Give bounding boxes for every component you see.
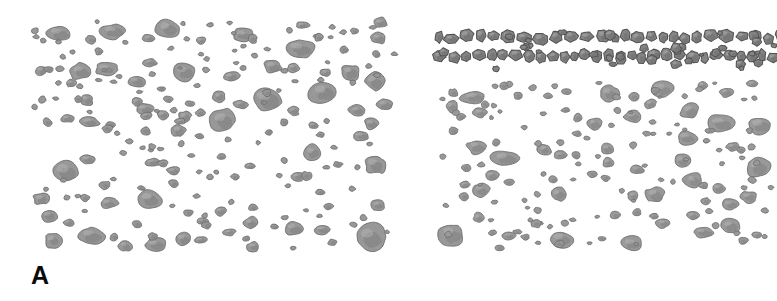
panel-b: B bbox=[400, 0, 777, 301]
clast bbox=[683, 128, 687, 131]
clast bbox=[39, 96, 46, 103]
clast bbox=[535, 241, 541, 244]
clast bbox=[491, 200, 497, 204]
clast bbox=[634, 243, 638, 246]
clast bbox=[741, 239, 746, 243]
clast bbox=[178, 141, 184, 147]
clast bbox=[642, 164, 648, 167]
clast bbox=[32, 104, 37, 110]
clast bbox=[229, 199, 235, 204]
clast bbox=[720, 162, 725, 166]
clast bbox=[743, 193, 750, 197]
clast bbox=[290, 246, 296, 250]
clast bbox=[734, 231, 740, 235]
clast bbox=[587, 242, 592, 245]
clast bbox=[198, 52, 203, 56]
clast bbox=[619, 188, 624, 193]
clast bbox=[683, 158, 689, 161]
clast bbox=[276, 174, 282, 178]
clast bbox=[232, 49, 237, 52]
clast bbox=[752, 96, 757, 100]
clast bbox=[716, 148, 722, 152]
clast bbox=[471, 142, 478, 146]
clast bbox=[658, 96, 662, 98]
clast bbox=[60, 54, 66, 59]
clast bbox=[596, 81, 602, 84]
clast bbox=[64, 195, 70, 200]
clast bbox=[203, 67, 210, 72]
clast bbox=[292, 80, 298, 83]
clast bbox=[277, 89, 282, 93]
clast bbox=[534, 207, 541, 213]
clast bbox=[60, 178, 66, 182]
clast bbox=[123, 40, 128, 44]
clast bbox=[385, 230, 389, 234]
clast bbox=[281, 69, 288, 74]
clast bbox=[70, 50, 75, 54]
clast bbox=[31, 28, 38, 34]
clast bbox=[110, 80, 117, 83]
clast bbox=[569, 218, 576, 222]
clast bbox=[261, 101, 266, 104]
clast bbox=[452, 110, 459, 116]
clast bbox=[575, 162, 581, 166]
panel-a-illustration bbox=[0, 0, 400, 301]
clast bbox=[642, 47, 647, 52]
clast bbox=[56, 66, 64, 72]
clast bbox=[703, 138, 710, 142]
clast bbox=[478, 183, 482, 186]
clast bbox=[249, 243, 255, 246]
clast bbox=[303, 209, 308, 212]
clast bbox=[194, 84, 201, 88]
clast bbox=[187, 154, 194, 158]
panel-b-illustration bbox=[400, 0, 777, 301]
clast bbox=[95, 79, 102, 82]
clast bbox=[649, 120, 656, 125]
clast bbox=[323, 166, 330, 169]
clast bbox=[561, 220, 568, 226]
clast bbox=[40, 38, 46, 43]
clast bbox=[498, 110, 502, 113]
clast bbox=[440, 154, 446, 159]
clast bbox=[149, 72, 156, 77]
clast bbox=[77, 84, 83, 89]
clast bbox=[439, 97, 444, 100]
clast bbox=[609, 123, 615, 127]
clast bbox=[251, 53, 257, 58]
clast bbox=[178, 67, 182, 69]
clast bbox=[570, 178, 576, 181]
clast bbox=[102, 68, 106, 71]
clast bbox=[231, 31, 236, 34]
clast bbox=[522, 198, 527, 203]
clast bbox=[762, 234, 767, 238]
clast bbox=[541, 172, 546, 177]
clast bbox=[761, 208, 768, 213]
clast bbox=[739, 156, 745, 160]
clast bbox=[114, 131, 119, 135]
clast bbox=[755, 51, 760, 54]
gravel-bed-figure: A B bbox=[0, 0, 777, 301]
clast bbox=[674, 123, 679, 126]
clast bbox=[225, 137, 231, 142]
clast bbox=[287, 27, 293, 33]
clast bbox=[350, 80, 356, 85]
clast bbox=[613, 94, 621, 100]
clast bbox=[170, 204, 175, 208]
clast bbox=[56, 40, 62, 44]
clast bbox=[671, 179, 676, 184]
clast bbox=[281, 216, 288, 220]
clast bbox=[741, 98, 747, 101]
clast bbox=[281, 157, 287, 163]
clast bbox=[451, 129, 457, 134]
clast bbox=[329, 25, 335, 30]
clast bbox=[366, 64, 372, 69]
clast bbox=[629, 112, 633, 114]
clast bbox=[584, 136, 590, 140]
clast bbox=[125, 139, 133, 144]
clast bbox=[682, 94, 688, 99]
clast bbox=[374, 73, 381, 78]
clast bbox=[355, 165, 360, 170]
clast bbox=[748, 144, 755, 150]
clast bbox=[325, 61, 330, 64]
clast bbox=[233, 61, 239, 64]
